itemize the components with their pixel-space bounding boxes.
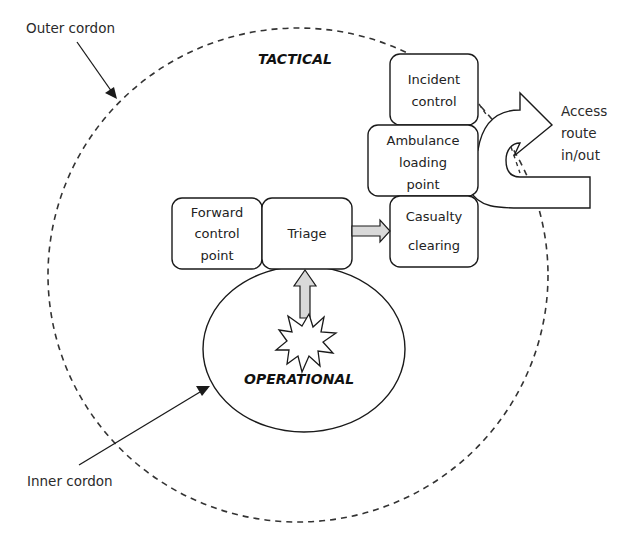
casualty-clearing-label: Casualty <box>406 209 463 224</box>
box-incident-control: Incident control <box>390 54 478 125</box>
box-ambulance-loading-point: Ambulance loading point <box>368 125 478 196</box>
incident-control-label: Incident <box>408 72 460 87</box>
svg-text:clearing: clearing <box>408 238 460 253</box>
zone-label-operational: OPERATIONAL <box>244 371 354 387</box>
box-casualty-clearing: Casualty clearing <box>390 196 478 267</box>
svg-text:point: point <box>200 248 233 263</box>
inner-cordon-label: Inner cordon <box>27 473 113 489</box>
outer-cordon-pointer-icon <box>77 42 117 99</box>
access-route-label-line2: route <box>561 125 597 141</box>
zone-label-tactical: TACTICAL <box>258 51 332 67</box>
box-triage: Triage <box>262 198 352 269</box>
arrow-triage-to-casualty-icon <box>352 220 390 242</box>
box-forward-control-point: Forward control point <box>172 198 262 269</box>
svg-text:control: control <box>194 226 239 241</box>
outer-cordon-label: Outer cordon <box>26 20 115 36</box>
svg-text:point: point <box>406 177 439 192</box>
inner-cordon-pointer-icon <box>79 386 210 465</box>
access-route-label-line1: Access <box>561 103 607 119</box>
access-route-label-line3: in/out <box>561 147 600 163</box>
forward-control-point-label: Forward <box>191 205 243 220</box>
svg-text:loading: loading <box>399 155 447 170</box>
ambulance-loading-point-label: Ambulance <box>386 133 459 148</box>
incident-scene-diagram: Incident control Ambulance loading point… <box>0 0 626 542</box>
svg-text:control: control <box>411 94 456 109</box>
triage-label: Triage <box>286 226 326 241</box>
